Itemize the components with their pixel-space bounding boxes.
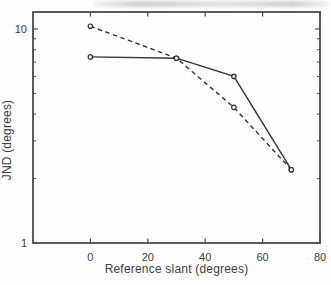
solid-series-marker bbox=[232, 74, 236, 78]
dashed-series-marker bbox=[289, 168, 293, 172]
y-axis-title: JND (degrees) bbox=[0, 60, 16, 220]
dashed-series-marker bbox=[88, 24, 92, 28]
solid-series-marker bbox=[88, 55, 92, 59]
solid-series-line bbox=[90, 57, 291, 170]
jnd-line-chart: 020406080110 bbox=[0, 0, 331, 285]
y-tick-label: 1 bbox=[21, 237, 27, 249]
x-axis-title: Reference slant (degrees) bbox=[33, 262, 320, 276]
y-tick-label: 10 bbox=[15, 23, 27, 35]
figure-canvas: 020406080110 Reference slant (degrees) J… bbox=[0, 0, 331, 285]
plot-frame bbox=[33, 12, 320, 243]
dashed-series-marker bbox=[232, 105, 236, 109]
dashed-series-line bbox=[90, 26, 291, 170]
dashed-series-marker bbox=[174, 56, 178, 60]
